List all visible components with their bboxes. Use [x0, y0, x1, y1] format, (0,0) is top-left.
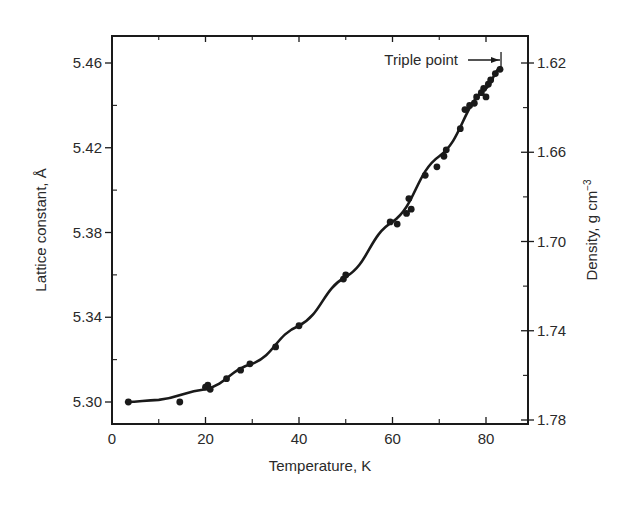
data-point — [342, 271, 349, 278]
data-point — [434, 163, 441, 170]
data-point — [247, 360, 254, 367]
data-point — [405, 195, 412, 202]
fit-line — [126, 67, 500, 402]
y2-tick-label: 1.70 — [537, 233, 566, 250]
data-point — [125, 399, 132, 406]
data-point — [441, 153, 448, 160]
y-axis-label: Lattice constant, Å — [32, 168, 49, 291]
x-tick-label: 0 — [108, 430, 116, 447]
data-point — [408, 206, 415, 213]
y-tick-label: 5.38 — [73, 224, 102, 241]
data-point — [483, 94, 490, 101]
x-axis-label: Temperature, K — [269, 457, 372, 474]
y2-tick-label: 1.62 — [537, 54, 566, 71]
data-point — [457, 125, 464, 132]
y2-tick-label: 1.78 — [537, 411, 566, 428]
plot-frame — [112, 36, 528, 424]
y-tick-label: 5.30 — [73, 393, 102, 410]
y2-tick-label: 1.66 — [537, 143, 566, 160]
data-point — [422, 172, 429, 179]
data-point — [387, 219, 394, 226]
data-points — [125, 66, 503, 405]
x-tick-label: 80 — [478, 430, 495, 447]
arrow-right-icon — [468, 52, 501, 67]
triple-point-label: Triple point — [384, 51, 458, 68]
x-tick-label: 60 — [384, 430, 401, 447]
data-point — [237, 367, 244, 374]
data-point — [497, 66, 504, 73]
data-point — [394, 221, 401, 228]
y2-axis-label-exponent: −3 — [582, 179, 593, 191]
y-tick-label: 5.42 — [73, 139, 102, 156]
axis-ticks: 0204060805.305.345.385.425.461.621.661.7… — [73, 36, 566, 447]
x-tick-label: 20 — [197, 430, 214, 447]
y-tick-label: 5.46 — [73, 54, 102, 71]
x-tick-label: 40 — [291, 430, 308, 447]
y2-tick-label: 1.74 — [537, 322, 566, 339]
data-point — [272, 344, 279, 351]
plot-border — [112, 36, 528, 424]
data-point — [207, 386, 214, 393]
fitted-curve — [126, 67, 500, 402]
y-tick-label: 5.34 — [73, 308, 102, 325]
triple-point-annotation: Triple point — [384, 51, 501, 68]
y2-axis-label: Density, g cm−3 — [582, 179, 600, 281]
data-point — [223, 375, 230, 382]
data-point — [443, 146, 450, 153]
data-point — [487, 77, 494, 84]
y2-axis-label-base: Density, g cm — [583, 191, 600, 281]
data-point — [471, 100, 478, 107]
data-point — [176, 399, 183, 406]
data-point — [296, 322, 303, 329]
chart: 0204060805.305.345.385.425.461.621.661.7… — [0, 0, 626, 505]
